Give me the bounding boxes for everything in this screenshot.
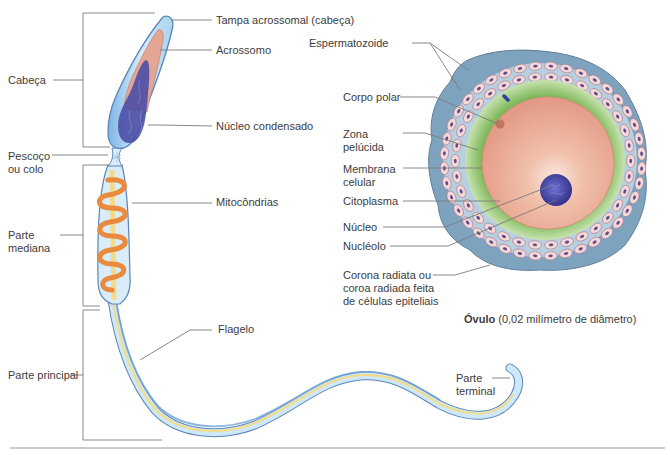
label-acrossomo: Acrossomo <box>216 44 271 57</box>
label-zona-pelucida: Zona pelúcida <box>343 128 384 154</box>
region-parte-principal: Parte principal <box>8 369 78 382</box>
corona-cell-nucleus <box>629 159 632 163</box>
label-citoplasma: Citoplasma <box>343 195 398 208</box>
label-espermatozoide: Espermatozoide <box>309 37 389 50</box>
label-mitocondrias: Mitocôndrias <box>216 196 278 209</box>
region-cabeca: Cabeça <box>8 74 46 87</box>
diagram-canvas <box>0 0 670 455</box>
corona-cell-nucleus <box>454 159 457 163</box>
label-parte-terminal: Parte terminal <box>456 372 495 398</box>
ovum-nucleus <box>540 174 572 206</box>
sperm-midpiece <box>98 165 130 304</box>
region-parte-mediana: Parte mediana <box>8 229 50 255</box>
region-pescoco: Pescoço ou colo <box>8 150 50 176</box>
label-corpo-polar: Corpo polar <box>343 91 400 104</box>
ovum-caption-detail: (0,02 milímetro de diâmetro) <box>498 313 636 325</box>
label-membrana-celular: Membrana celular <box>343 163 396 189</box>
cytoplasm <box>482 97 614 229</box>
ovum-caption: Óvulo (0,02 milímetro de diâmetro) <box>464 313 636 325</box>
label-corona-radiata: Corona radiata ou coroa radiada feita de… <box>343 269 438 308</box>
label-flagelo: Flagelo <box>218 323 254 336</box>
sperm-head <box>108 16 173 166</box>
label-nucleo-condensado: Núcleo condensado <box>216 120 313 133</box>
label-nucleolo: Nucléolo <box>343 240 386 253</box>
sperm-flagellum <box>112 300 519 433</box>
ovum-caption-title: Óvulo <box>464 313 495 325</box>
ovum <box>429 50 647 270</box>
polar-body <box>496 120 505 129</box>
label-nucleo: Núcleo <box>343 221 377 234</box>
label-tampa-acrossomal: Tampa acrossomal (cabeça) <box>216 14 354 27</box>
